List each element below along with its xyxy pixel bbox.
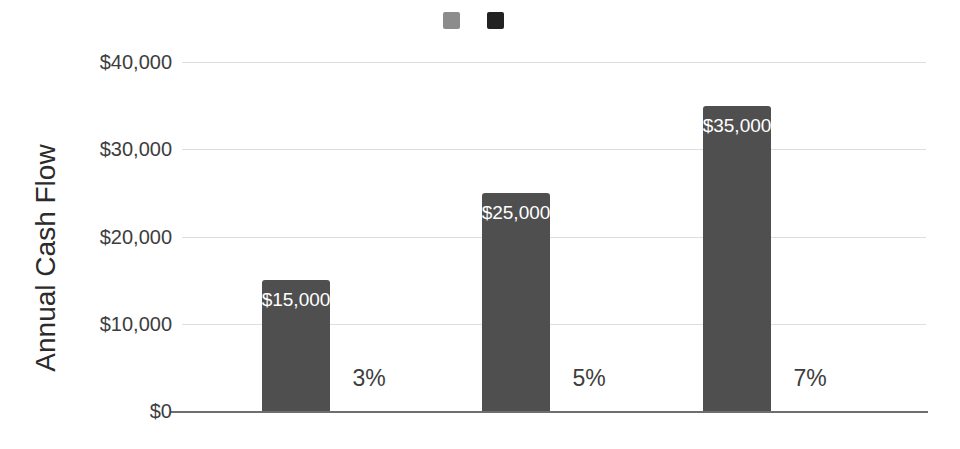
gridline-20000	[182, 237, 926, 238]
y-tick-label: $20,000	[62, 226, 172, 249]
y-tick-label: $10,000	[62, 313, 172, 336]
annual-cash-flow-bar-chart: Annual Cash Flow $0$10,000$20,000$30,000…	[0, 0, 960, 449]
bar-value-label: $15,000	[256, 289, 336, 311]
y-tick-label: $30,000	[62, 138, 172, 161]
legend-swatch-black-series	[487, 12, 504, 29]
bar-value-label: $25,000	[476, 202, 556, 224]
legend-swatch-gray-series	[443, 12, 460, 29]
x-axis-line	[170, 411, 928, 413]
y-tick-label: $0	[62, 400, 172, 423]
gridline-40000	[182, 62, 926, 63]
y-axis-title: Annual Cash Flow	[29, 113, 63, 403]
category-label: 5%	[549, 365, 629, 392]
bar-5%	[482, 193, 550, 411]
bar-7%	[703, 106, 771, 411]
category-label: 3%	[329, 365, 409, 392]
gridline-30000	[182, 149, 926, 150]
category-label: 7%	[770, 365, 850, 392]
y-tick-label: $40,000	[62, 51, 172, 74]
bar-value-label: $35,000	[697, 115, 777, 137]
chart-legend	[443, 12, 504, 29]
